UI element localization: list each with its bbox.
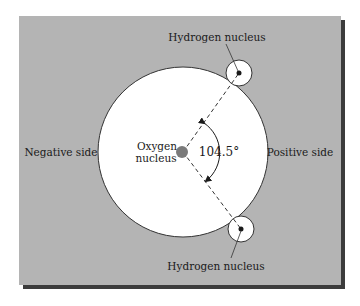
hydrogen-top-label: Hydrogen nucleus [168, 31, 265, 43]
oxygen-nucleus [176, 146, 188, 158]
negative-side-label: Negative side [24, 146, 97, 158]
hydrogen-nucleus-bottom [239, 227, 244, 232]
hydrogen-nucleus-top [237, 71, 242, 76]
bond-angle-label: 104.5° [199, 145, 239, 159]
oxygen-label-line1: Oxygen [137, 140, 177, 152]
hydrogen-bottom-label: Hydrogen nucleus [167, 260, 264, 272]
oxygen-label-line2: nucleus [135, 152, 176, 164]
water-molecule-diagram: Hydrogen nucleus Hydrogen nucleus Oxygen… [0, 0, 360, 306]
positive-side-label: Positive side [267, 146, 333, 158]
